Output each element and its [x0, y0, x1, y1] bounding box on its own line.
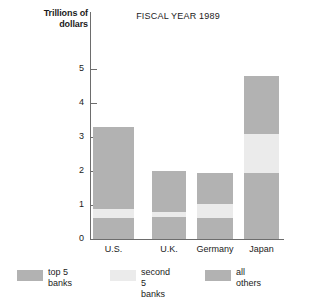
legend-swatch: [205, 270, 231, 281]
bar-segment: [244, 173, 279, 239]
legend-swatch: [17, 270, 43, 281]
stacked-bar-chart: Trillions of dollars FISCAL YEAR 1989 54…: [0, 0, 309, 298]
bar-segment: [244, 134, 279, 173]
y-tick-label: 2: [62, 165, 84, 175]
bar-segment: [197, 218, 233, 239]
y-axis-title-line1: Trillions of: [44, 8, 88, 18]
legend-label: top 5banks: [48, 267, 72, 289]
bar-u-s: [93, 0, 134, 240]
bars-layer: [90, 0, 284, 240]
bar-segment: [93, 127, 134, 209]
bar-segment: [152, 171, 186, 212]
legend-label-line1: all: [236, 267, 261, 278]
legend-label-line2: banks: [48, 278, 72, 289]
y-tick-label: 1: [62, 199, 84, 209]
bar-segment: [152, 212, 186, 216]
legend-label: second5 banks: [141, 267, 170, 298]
legend-swatch: [110, 270, 136, 281]
bar-segment: [244, 76, 279, 134]
y-tick-label: 5: [62, 63, 84, 73]
y-axis-title-line2: dollars: [59, 19, 88, 29]
legend-label-line2: 5 banks: [141, 278, 170, 298]
bar-segment: [93, 209, 134, 218]
legend-label: allothers: [236, 267, 261, 289]
bar-segment: [93, 218, 134, 239]
bar-germany: [197, 0, 233, 240]
y-tick-label: 0: [62, 233, 84, 243]
bar-segment: [197, 173, 233, 205]
legend-label-line1: top 5: [48, 267, 72, 278]
bar-u-k: [152, 0, 186, 240]
bar-japan: [244, 0, 279, 240]
y-tick-label: 4: [62, 97, 84, 107]
x-axis-label-japan: Japan: [226, 244, 297, 254]
legend-label-line2: others: [236, 278, 261, 289]
legend-label-line1: second: [141, 267, 170, 278]
bar-segment: [197, 204, 233, 218]
y-axis-title: Trillions of dollars: [10, 8, 88, 30]
chart-legend: top 5bankssecond5 banksallothers: [0, 268, 309, 298]
bar-segment: [152, 217, 186, 239]
y-tick-label: 3: [62, 131, 84, 141]
